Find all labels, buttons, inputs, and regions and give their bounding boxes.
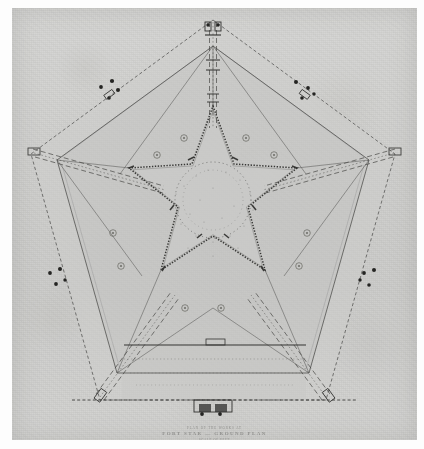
outwork-marker bbox=[200, 412, 222, 416]
drawing-sheet: PLAN OF THE WORKS AT FORT STAR — GROUND … bbox=[12, 8, 417, 440]
south-gate-structure bbox=[72, 400, 357, 412]
caption-line-2: FORT STAR — GROUND PLAN bbox=[12, 431, 417, 436]
caption-line-3: SCALE OF FEET bbox=[12, 438, 417, 440]
fort-ground-plan-drawing bbox=[12, 8, 417, 440]
caption-line-1: PLAN OF THE WORKS AT bbox=[12, 426, 417, 430]
screenshot-canvas: PLAN OF THE WORKS AT FORT STAR — GROUND … bbox=[0, 0, 424, 449]
